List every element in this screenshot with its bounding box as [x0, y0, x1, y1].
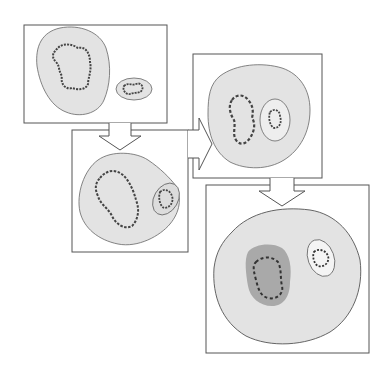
stage-4-cell [214, 209, 361, 344]
stage-3-micronucleus [260, 99, 290, 141]
stage-1-micronucleus [116, 78, 152, 100]
cell-stage-diagram [0, 0, 389, 375]
